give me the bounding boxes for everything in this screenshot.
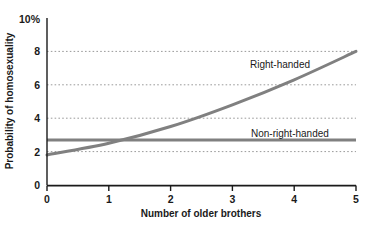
y-axis-title: Probability of homosexuality — [4, 32, 15, 169]
y-tick-label-4: 4 — [34, 112, 40, 124]
plot-area-background — [47, 18, 356, 185]
y-tick-label-8: 8 — [34, 45, 40, 57]
y-tick-label-2: 2 — [34, 146, 40, 158]
x-tick-label-5: 5 — [353, 193, 359, 205]
x-axis-title: Number of older brothers — [141, 208, 262, 219]
y-tick-label-0: 0 — [34, 179, 40, 191]
y-tick-label-6: 6 — [34, 79, 40, 91]
x-tick-label-2: 2 — [168, 193, 174, 205]
series-label-non-right-handed: Non-right-handed — [251, 128, 329, 139]
series-label-right-handed: Right-handed — [250, 59, 310, 70]
chart-svg: 10% 8 6 4 2 0 0 1 2 3 4 5 Number of olde… — [0, 0, 378, 231]
x-axis-ticks — [47, 186, 356, 191]
x-tick-label-4: 4 — [291, 193, 297, 205]
y-tick-label-10: 10% — [19, 13, 41, 25]
x-tick-label-1: 1 — [106, 193, 112, 205]
x-tick-label-3: 3 — [229, 193, 235, 205]
x-tick-label-0: 0 — [44, 193, 50, 205]
chart-container: 10% 8 6 4 2 0 0 1 2 3 4 5 Number of olde… — [0, 0, 378, 231]
